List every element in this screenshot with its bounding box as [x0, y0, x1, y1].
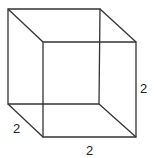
edge-top-right [100, 9, 136, 42]
depth-label: 2 [13, 121, 20, 136]
cube-diagram: 2 2 2 [0, 0, 155, 158]
front-face [43, 42, 136, 137]
edge-top-left [8, 9, 43, 42]
width-label: 2 [86, 143, 93, 158]
edge-bottom-right [99, 104, 136, 137]
back-face [8, 9, 100, 104]
height-label: 2 [140, 81, 147, 96]
